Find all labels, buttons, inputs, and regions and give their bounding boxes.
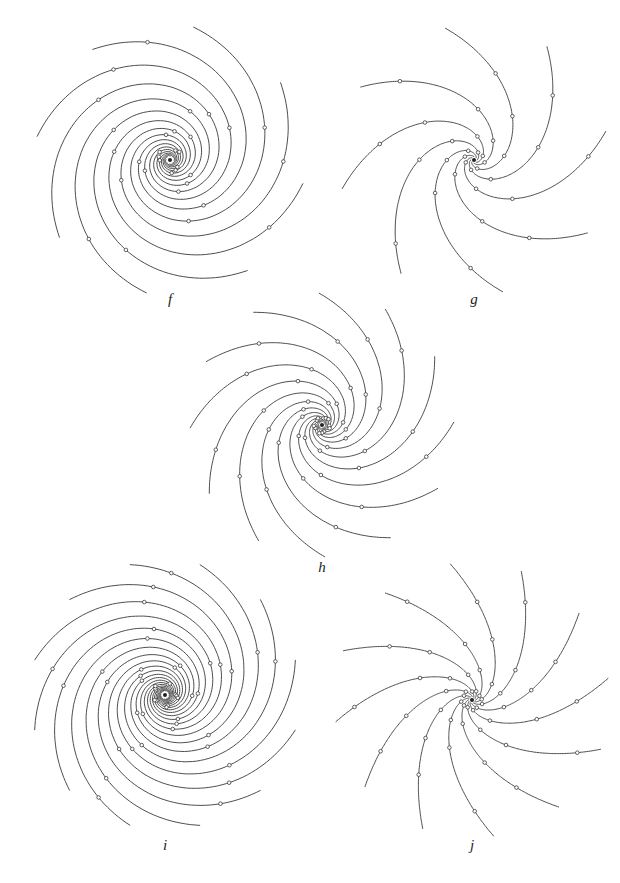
point-marker-icon (173, 130, 177, 134)
spiral-arm (342, 121, 483, 189)
point-marker-icon (474, 690, 478, 694)
point-marker-icon (174, 168, 178, 172)
point-marker-icon (411, 430, 415, 434)
point-marker-icon (400, 349, 404, 353)
point-marker-icon (335, 402, 339, 406)
point-marker-icon (174, 149, 178, 153)
point-marker-icon (202, 204, 206, 208)
point-marker-icon (141, 712, 145, 716)
point-marker-icon (450, 139, 454, 143)
point-marker-icon (394, 242, 398, 246)
point-marker-icon (353, 705, 357, 709)
point-marker-icon (360, 505, 364, 509)
point-marker-icon (62, 684, 66, 688)
point-marker-icon (488, 719, 492, 723)
point-marker-icon (319, 473, 323, 477)
point-marker-icon (334, 525, 338, 529)
point-marker-icon (475, 167, 479, 171)
point-marker-icon (165, 706, 169, 710)
point-marker-icon (301, 415, 305, 419)
figure-label-i: i (163, 838, 167, 853)
point-marker-icon (219, 663, 223, 667)
spiral-arm (468, 701, 601, 754)
point-marker-icon (206, 745, 210, 749)
point-marker-icon (177, 190, 181, 194)
spiral-arm (418, 696, 471, 829)
point-marker-icon (469, 266, 473, 270)
point-marker-icon (433, 191, 437, 195)
point-marker-icon (379, 749, 383, 753)
point-marker-icon (476, 135, 480, 139)
point-marker-icon (464, 161, 468, 165)
point-marker-icon (112, 68, 116, 72)
point-marker-icon (104, 776, 108, 780)
spiral-arm (465, 131, 606, 199)
point-marker-icon (112, 128, 116, 132)
point-marker-icon (535, 717, 539, 721)
point-marker-icon (175, 722, 179, 726)
point-marker-icon (176, 717, 180, 721)
point-marker-icon (453, 173, 457, 177)
spiral-arm (98, 655, 260, 806)
point-marker-icon (219, 802, 223, 806)
point-marker-icon (154, 684, 158, 688)
point-marker-icon (238, 475, 242, 479)
spiral-diagram-canvas (0, 0, 620, 883)
point-marker-icon (228, 126, 232, 130)
point-marker-icon (528, 236, 532, 240)
point-marker-icon (265, 488, 269, 492)
point-marker-icon (178, 150, 182, 154)
point-marker-icon (341, 421, 345, 425)
point-marker-icon (511, 197, 515, 201)
spiral-arm (343, 646, 476, 699)
point-marker-icon (466, 673, 470, 677)
point-marker-icon (530, 688, 534, 692)
spiral-figure-f (37, 27, 303, 293)
point-marker-icon (327, 401, 331, 405)
point-marker-icon (490, 682, 494, 686)
spiral-arm (455, 155, 588, 239)
point-marker-icon (476, 151, 480, 155)
point-marker-icon (551, 94, 555, 98)
point-marker-icon (327, 417, 331, 421)
point-marker-icon (469, 168, 473, 172)
point-marker-icon (230, 669, 234, 673)
point-marker-icon (524, 601, 528, 605)
point-marker-icon (363, 449, 367, 453)
point-marker-icon (185, 182, 189, 186)
point-marker-icon (378, 142, 382, 146)
point-marker-icon (480, 702, 484, 706)
point-marker-icon (461, 722, 465, 726)
point-marker-icon (483, 161, 487, 165)
point-marker-icon (112, 150, 116, 154)
point-marker-icon (303, 436, 307, 440)
point-marker-icon (464, 690, 468, 694)
point-marker-icon (139, 674, 143, 678)
point-marker-icon (471, 708, 475, 712)
point-marker-icon (378, 407, 382, 411)
point-marker-icon (187, 219, 191, 223)
point-marker-icon (326, 445, 330, 449)
spiral-center-dot (470, 698, 474, 702)
spiral-arm (131, 565, 258, 752)
point-marker-icon (448, 677, 452, 681)
spiral-arm (69, 585, 231, 736)
point-marker-icon (575, 700, 579, 704)
point-marker-icon (462, 704, 466, 708)
spiral-center-dot (163, 693, 167, 697)
point-marker-icon (318, 449, 322, 453)
figure-label-h: h (318, 560, 326, 575)
point-marker-icon (344, 437, 348, 441)
spiral-figure-g (342, 28, 606, 292)
figure-label-f: f (168, 292, 172, 307)
point-marker-icon (120, 178, 124, 182)
point-marker-icon (87, 237, 91, 241)
point-marker-icon (494, 72, 498, 76)
point-marker-icon (502, 705, 506, 709)
point-marker-icon (190, 694, 194, 698)
point-marker-icon (366, 338, 370, 342)
point-marker-icon (277, 441, 281, 445)
point-marker-icon (502, 154, 506, 158)
point-marker-icon (302, 408, 306, 412)
spiral-figure-j (336, 564, 609, 837)
